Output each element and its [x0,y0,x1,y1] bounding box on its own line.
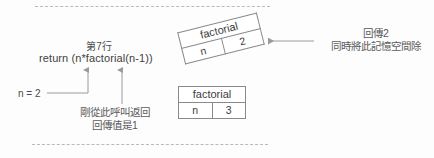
code-line-number-label: 第7行 [86,38,112,53]
arrow-n-binding [47,70,88,93]
stack-frame-factorial-3: factorial n 3 [178,86,246,119]
right-annotation: 回傳2 同時將此記憶空間除 [318,27,434,53]
frame-var-name: n [179,103,213,119]
variable-n-label: n = 2 [18,88,41,99]
frame-var-value: 3 [212,103,246,119]
diagram-canvas: 第7行 return (n*factorial(n-1)) n = 2 剛從此呼… [0,0,434,158]
right-annotation-line1: 回傳2 [318,27,434,40]
code-statement: return (n*factorial(n-1)) [39,52,153,64]
table-row: n 3 [179,103,246,119]
stack-frame-tilted-wrapper: factorial n 2 [177,13,265,65]
bottom-annotation: 剛從此呼叫返回 回傳值是1 [63,106,167,132]
right-annotation-line2: 同時將此記憶空間除 [318,40,434,53]
stack-frame-factorial-2: factorial n 2 [177,13,265,65]
table-row: factorial [179,87,246,103]
frame-header-label: factorial [179,87,246,103]
bottom-annotation-line2: 回傳值是1 [63,119,167,132]
top-dashed-divider [35,6,270,7]
bottom-dashed-divider [32,144,268,145]
bottom-annotation-line1: 剛從此呼叫返回 [63,106,167,119]
